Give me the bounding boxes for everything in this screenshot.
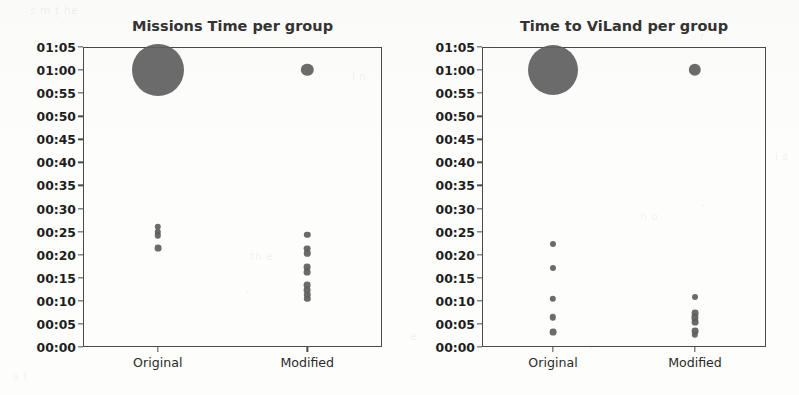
y-axis-tick-mark xyxy=(477,69,482,70)
y-axis-tick-label: 00:50 xyxy=(420,109,475,124)
y-axis-tick-mark xyxy=(477,208,482,209)
y-axis-tick-mark xyxy=(477,277,482,278)
y-axis-tick-label: 00:25 xyxy=(420,224,475,239)
y-axis-tick-label: 00:10 xyxy=(420,293,475,308)
data-point xyxy=(528,45,578,95)
y-axis-tick-mark xyxy=(477,346,482,347)
y-axis-tick-label: 00:15 xyxy=(420,270,475,285)
y-axis-tick-label: 00:20 xyxy=(420,247,475,262)
x-axis-tick-mark xyxy=(552,347,553,352)
y-axis-tick-mark xyxy=(477,231,482,232)
y-axis-tick-mark xyxy=(477,323,482,324)
y-axis-tick-mark xyxy=(477,300,482,301)
x-axis-category-label-original: Original xyxy=(528,355,577,370)
plot-area xyxy=(482,47,766,347)
data-point xyxy=(550,265,556,271)
data-point xyxy=(692,294,698,300)
y-axis-tick-label: 00:40 xyxy=(420,155,475,170)
chart-panel-time-to-viland: Time to ViLand per group00:0000:0500:100… xyxy=(0,0,799,395)
y-axis-tick-label: 00:30 xyxy=(420,201,475,216)
x-axis-tick-mark xyxy=(694,347,695,352)
y-axis-tick-mark xyxy=(477,46,482,47)
y-axis-tick-label: 01:05 xyxy=(420,40,475,55)
y-axis-tick-mark xyxy=(477,162,482,163)
y-axis-tick-label: 00:05 xyxy=(420,316,475,331)
y-axis-tick-label: 00:55 xyxy=(420,86,475,101)
figure-canvas: s m t hei nrth esn oei sa tMissions Time… xyxy=(0,0,799,395)
data-point xyxy=(550,241,556,247)
y-axis-tick-mark xyxy=(477,139,482,140)
x-axis-category-label-modified: Modified xyxy=(668,355,722,370)
y-axis-tick-mark xyxy=(477,92,482,93)
y-axis-tick-mark xyxy=(477,185,482,186)
data-point xyxy=(550,329,557,336)
y-axis-tick-label: 01:00 xyxy=(420,63,475,78)
y-axis-tick-label: 00:45 xyxy=(420,132,475,147)
y-axis-tick-mark xyxy=(477,116,482,117)
data-point xyxy=(692,319,699,326)
y-axis-tick-mark xyxy=(477,254,482,255)
y-axis-tick-label: 00:00 xyxy=(420,340,475,355)
y-axis-tick-label: 00:35 xyxy=(420,178,475,193)
chart-title: Time to ViLand per group xyxy=(482,18,766,34)
